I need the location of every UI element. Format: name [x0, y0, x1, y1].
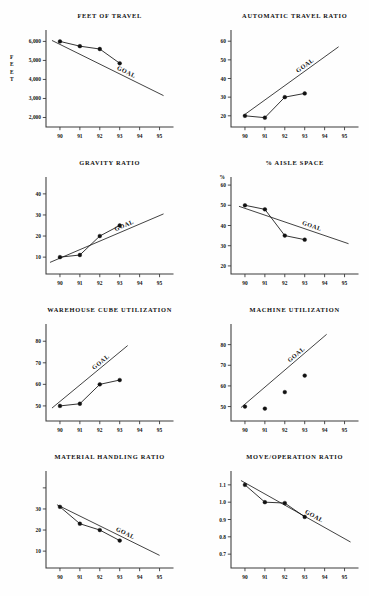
chart-title: % AISLE SPACE	[265, 159, 324, 166]
y-tick-label: 4,000	[29, 76, 41, 82]
y-tick-label: 0.8	[219, 534, 226, 540]
data-point	[262, 207, 266, 211]
chart-title: GRAVITY RATIO	[79, 159, 140, 166]
x-tick-label: 95	[157, 280, 163, 286]
x-tick-label: 92	[282, 133, 288, 139]
data-point	[302, 92, 306, 96]
x-tick-label: 90	[57, 280, 63, 286]
data-point	[302, 238, 306, 242]
x-tick-label: 95	[157, 133, 163, 139]
x-tick-label: 93	[117, 574, 123, 580]
data-point	[118, 539, 122, 543]
x-tick-label: 93	[302, 427, 308, 433]
y-tick-label: 40	[36, 191, 42, 197]
goal-trend-line	[240, 481, 350, 542]
chart-axes	[46, 177, 174, 274]
goal-trend-line	[238, 206, 348, 243]
y-tick-label: 60	[36, 381, 42, 387]
data-point	[78, 44, 82, 48]
y-axis-name: F	[10, 54, 14, 60]
chart-axes	[46, 471, 174, 568]
x-tick-label: 92	[282, 280, 288, 286]
goal-label: GOAL	[113, 218, 134, 232]
x-tick-label: 94	[321, 427, 327, 433]
y-tick-label: 30	[220, 243, 226, 249]
x-tick-label: 92	[97, 133, 103, 139]
y-tick-label: 40	[220, 223, 226, 229]
data-point	[98, 234, 102, 238]
chart-cell-material-handling-ratio: MATERIAL HANDLING RATIO10203090919293949…	[0, 449, 185, 596]
goal-trend-line	[52, 346, 128, 409]
goal-label: GOAL	[303, 508, 324, 524]
goal-label: GOAL	[301, 219, 322, 232]
x-tick-label: 90	[242, 427, 248, 433]
data-point	[243, 203, 247, 207]
chart-axes	[231, 324, 359, 421]
x-tick-label: 95	[341, 427, 347, 433]
data-point	[58, 40, 62, 44]
chart-title: MATERIAL HANDLING RATIO	[55, 453, 165, 460]
chart-title: WAREHOUSE CUBE UTILIZATION	[47, 306, 172, 313]
y-tick-label: 0.9	[219, 517, 226, 523]
y-tick-label: 20	[36, 527, 42, 533]
y-tick-label: 20	[36, 233, 42, 239]
data-point	[262, 116, 266, 120]
x-tick-label: 91	[262, 280, 268, 286]
x-tick-label: 94	[137, 427, 143, 433]
y-tick-label: 60	[220, 383, 226, 389]
x-tick-label: 94	[137, 574, 143, 580]
x-tick-label: 95	[341, 280, 347, 286]
data-point	[118, 378, 122, 382]
data-point	[282, 95, 286, 99]
x-tick-label: 91	[77, 427, 83, 433]
chart-cell-feet-of-travel: FEET OF TRAVEL2,0003,0004,0005,0006,000F…	[0, 8, 185, 155]
goal-label: GOAL	[116, 64, 137, 79]
x-tick-label: 92	[282, 574, 288, 580]
x-tick-label: 93	[117, 280, 123, 286]
data-point	[78, 402, 82, 406]
x-tick-label: 91	[262, 133, 268, 139]
y-tick-label: 60	[220, 38, 226, 44]
data-point	[262, 500, 266, 504]
goal-trend-line	[52, 40, 164, 95]
x-tick-label: 94	[321, 574, 327, 580]
x-tick-label: 90	[242, 280, 248, 286]
y-tick-label: 20	[220, 263, 226, 269]
x-tick-label: 92	[97, 574, 103, 580]
x-tick-label: 91	[77, 133, 83, 139]
data-point	[282, 390, 286, 394]
chart-title: FEET OF TRAVEL	[77, 12, 142, 19]
chart-axes	[46, 30, 174, 127]
series-line	[60, 226, 120, 258]
series-line	[60, 380, 120, 406]
goal-trend-line	[242, 47, 338, 116]
y-tick-label: 20	[220, 113, 226, 119]
y-tick-label: 2,000	[29, 114, 41, 120]
goal-trend-line	[240, 334, 326, 407]
goal-trend-line	[50, 214, 164, 262]
x-tick-label: 90	[242, 133, 248, 139]
y-tick-label: 5,000	[29, 57, 41, 63]
y-tick-label: 40	[220, 76, 226, 82]
x-tick-label: 91	[77, 280, 83, 286]
series-line	[60, 41, 120, 63]
y-tick-label: 0.7	[219, 551, 226, 557]
x-tick-label: 95	[341, 133, 347, 139]
y-tick-label: 50	[36, 403, 42, 409]
x-tick-label: 94	[321, 280, 327, 286]
x-tick-label: 93	[302, 133, 308, 139]
y-axis-name: T	[10, 76, 14, 82]
y-tick-label: 30	[220, 94, 226, 100]
y-tick-label: 6,000	[29, 38, 41, 44]
y-tick-label: 3,000	[29, 95, 41, 101]
x-tick-label: 93	[117, 133, 123, 139]
chart-cell-machine-utilization: MACHINE UTILIZATION50607080909192939495G…	[185, 302, 369, 449]
x-tick-label: 93	[302, 574, 308, 580]
x-tick-label: 90	[57, 427, 63, 433]
x-tick-label: 91	[262, 574, 268, 580]
x-tick-label: 93	[302, 280, 308, 286]
y-tick-label: 50	[220, 202, 226, 208]
data-point	[282, 234, 286, 238]
y-axis-name: E	[10, 69, 14, 75]
data-point	[98, 47, 102, 51]
